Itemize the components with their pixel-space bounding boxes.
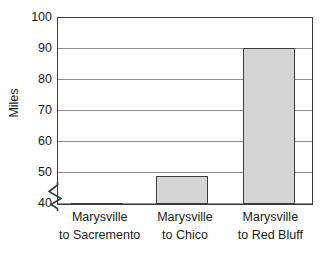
y-tick-label: 90 [6,42,52,55]
y-tick-label: 80 [6,73,52,86]
category-label-chico: Marysville to Chico [142,208,227,256]
category-label-line: Marysville [142,208,227,226]
category-label-line: Marysville [57,208,142,226]
category-label-red-bluff: Marysville to Red Bluff [228,208,313,256]
y-tick-label: 70 [6,104,52,117]
category-label-line: Marysville [228,208,313,226]
category-label-line: to Red Bluff [228,226,313,244]
y-tick-label: 50 [6,166,52,179]
y-tick-label: 100 [6,11,52,24]
category-label-sacremento: Marysville to Sacremento [57,208,142,256]
bar-marysville-to-sacremento [71,203,123,205]
y-tick-label: 40 [6,197,52,210]
category-label-line: to Chico [142,226,227,244]
x-axis-category-labels: Marysville to Sacremento Marysville to C… [57,208,313,256]
bar-marysville-to-chico [156,176,208,204]
category-label-line: to Sacremento [57,226,142,244]
bar-chart: Miles 100 90 80 70 60 50 40 Marysville t… [0,0,331,259]
plot-area [57,17,313,205]
y-axis-tick-labels: 100 90 80 70 60 50 40 [0,17,52,205]
y-tick-label: 60 [6,135,52,148]
bar-marysville-to-red-bluff [243,48,295,204]
